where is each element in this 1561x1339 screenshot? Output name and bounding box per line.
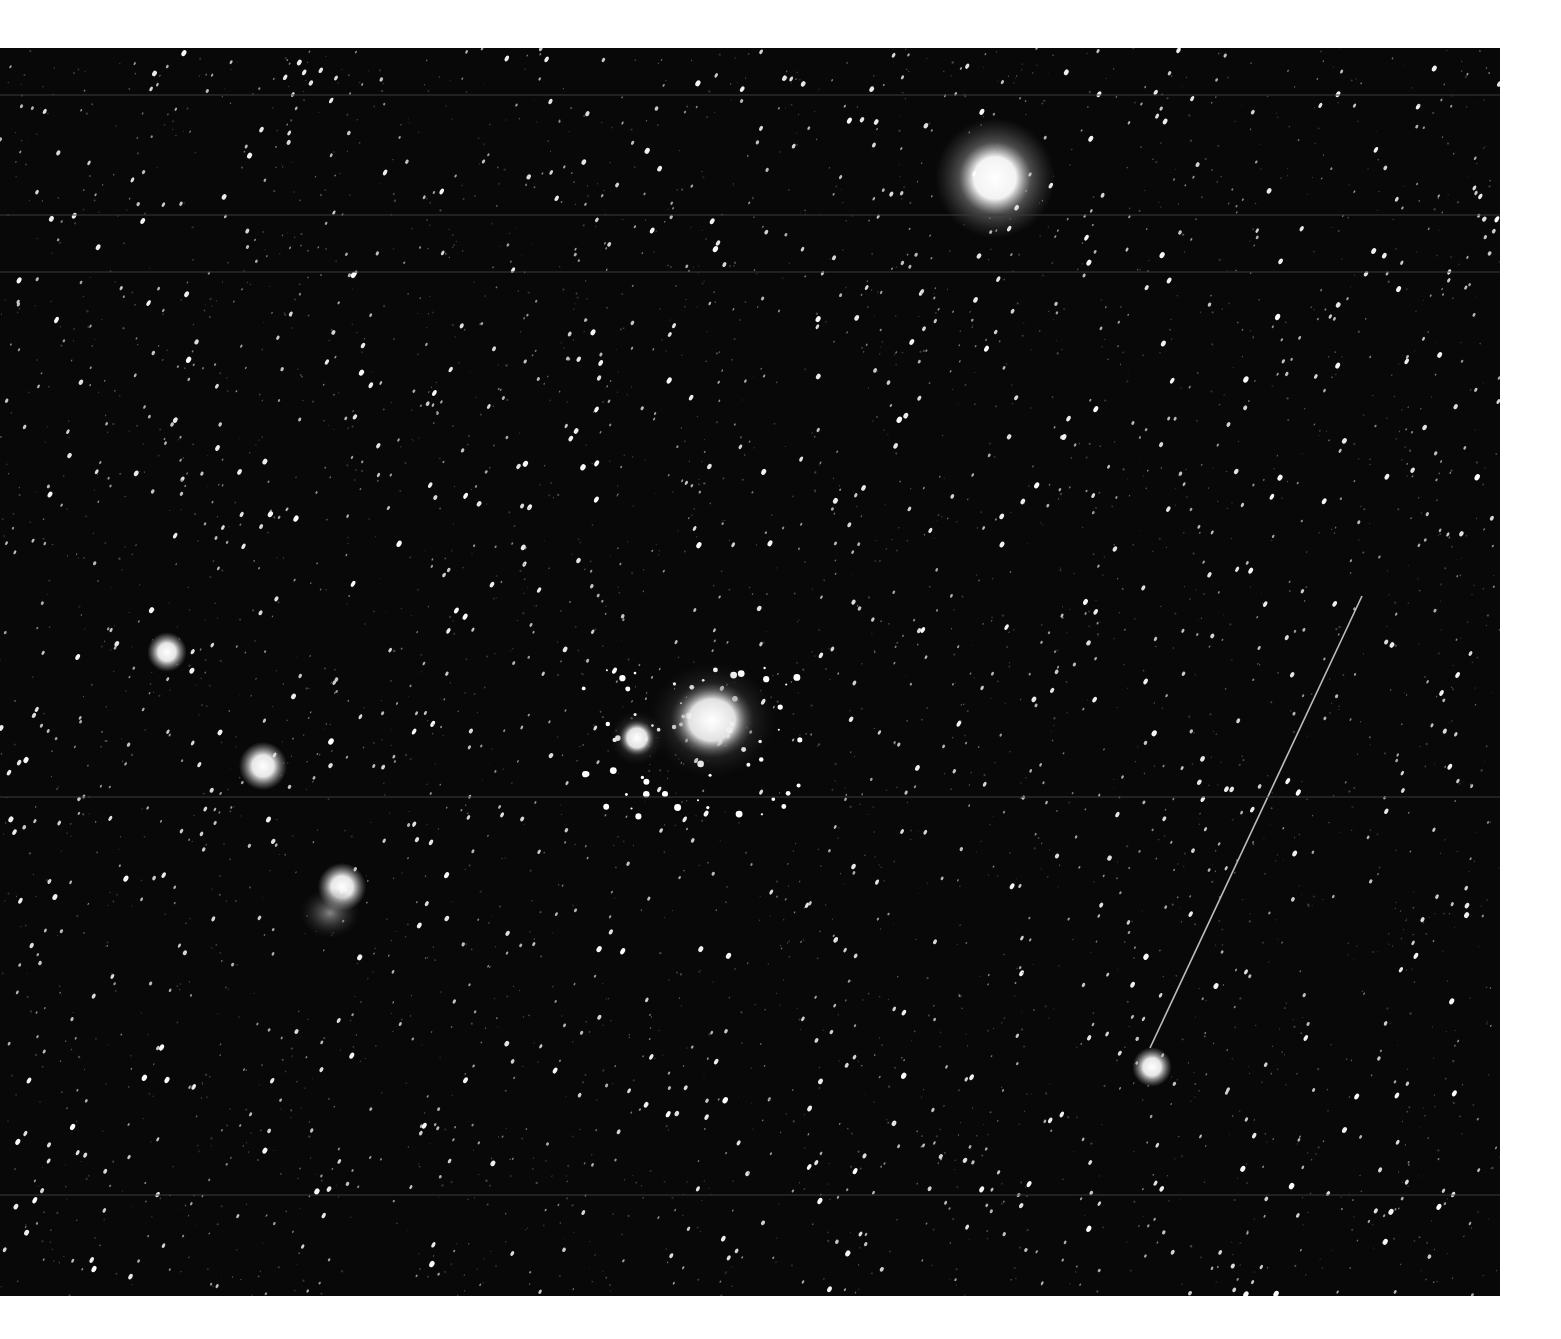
- orion-astrophotograph: [0, 48, 1500, 1296]
- bright-star-lower-right: [1132, 1047, 1172, 1087]
- horsehead-flame-nebula: [300, 888, 360, 938]
- bright-star-top: [935, 118, 1055, 238]
- alnilam-star: [239, 742, 287, 790]
- mintaka-star: [147, 632, 187, 672]
- background-stars: [0, 48, 1500, 1296]
- star-field: [0, 48, 1500, 1296]
- satellite-trail: [1150, 596, 1362, 1048]
- celestial-objects: [147, 118, 1172, 1087]
- scan-lines: [0, 95, 1500, 1195]
- orion-nebula: [670, 682, 754, 758]
- de-mairan-nebula: [619, 720, 655, 756]
